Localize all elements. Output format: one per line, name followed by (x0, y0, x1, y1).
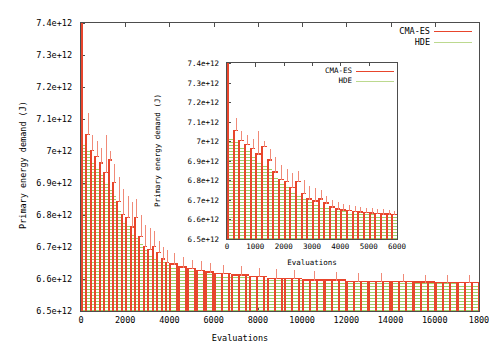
cma-es-error-whisker (201, 261, 202, 271)
x-tick-label: 8000 (248, 315, 268, 325)
y-tick-label: 7.1e+12 (36, 114, 72, 124)
cma-es-error-whisker (326, 196, 327, 204)
cma-es-error-whisker (128, 196, 129, 218)
cma-es-band (435, 283, 457, 311)
cma-es-error-whisker (163, 247, 164, 260)
cma-es-error-whisker (258, 131, 259, 154)
cma-es-error-whisker (294, 270, 295, 279)
y-tick-label: 7.3e+12 (187, 78, 219, 87)
x-tick-label: 3000 (303, 242, 321, 251)
cma-es-error-whisker (270, 149, 271, 161)
main-legend-swatch-cma-es (434, 31, 472, 32)
cma-es-error-whisker (360, 207, 361, 213)
main-y-tick-labels: 6.5e+126.6e+126.7e+126.8e+126.9e+127e+12… (0, 22, 76, 312)
x-tick-label: 12000 (334, 315, 360, 325)
y-tick-label: 6.9e+12 (187, 156, 219, 165)
y-tick-label: 6.7e+12 (36, 242, 72, 252)
main-legend-item-hde: HDE (340, 37, 472, 48)
cma-es-error-whisker (315, 188, 316, 202)
cma-es-error-whisker (167, 250, 168, 263)
cma-es-error-whisker (275, 157, 276, 173)
cma-es-error-whisker (381, 273, 382, 282)
main-legend-label-hde: HDE (415, 37, 430, 47)
y-tick-label: 6.9e+12 (36, 178, 72, 188)
inset-y-axis-label: Primary energy demand (J) (153, 76, 162, 226)
y-tick-label: 7.3e+12 (36, 50, 72, 60)
cma-es-band (284, 279, 302, 311)
data-band (435, 23, 457, 311)
cma-es-band (324, 281, 346, 311)
cma-es-error-whisker (292, 173, 293, 189)
x-tick-label: 2000 (115, 315, 135, 325)
y-tick-label: 7.1e+12 (187, 117, 219, 126)
cma-es-error-whisker (110, 151, 111, 161)
x-tick-label: 4000 (331, 242, 349, 251)
y-tick-label: 7.4e+12 (36, 18, 72, 28)
cma-es-band (169, 265, 178, 311)
x-tick-label: 1800 (469, 315, 489, 325)
cma-es-band (413, 283, 435, 311)
cma-es-band (457, 283, 479, 311)
x-tick-label: 0 (78, 315, 83, 325)
main-legend-item-cma-es: CMA-ES (340, 26, 472, 37)
cma-es-error-whisker (276, 269, 277, 279)
x-tick-label: 10000 (289, 315, 315, 325)
cma-es-error-whisker (336, 272, 337, 281)
cma-es-error-whisker (223, 265, 224, 275)
cma-es-error-whisker (119, 177, 120, 203)
y-tick-label: 7.2e+12 (36, 82, 72, 92)
x-tick-label: 2000 (275, 242, 293, 251)
main-y-axis-label: Primary energy demand (J) (18, 85, 28, 245)
cma-es-band (391, 215, 397, 239)
cma-es-band (368, 282, 390, 311)
cma-es-error-whisker (174, 253, 175, 264)
cma-es-error-whisker (247, 135, 248, 145)
cma-es-error-whisker (447, 275, 448, 283)
main-legend: CMA-ES HDE (340, 26, 472, 48)
y-tick-label: 7.2e+12 (187, 98, 219, 107)
y-tick-label: 7e+12 (46, 146, 72, 156)
cma-es-band (196, 271, 205, 311)
cma-es-error-whisker (253, 139, 254, 149)
cma-es-mean-cap (413, 281, 435, 283)
x-tick-label: 16000 (422, 315, 448, 325)
cma-es-band (391, 282, 413, 311)
cma-es-error-whisker (287, 169, 288, 183)
cma-es-band (205, 273, 214, 311)
y-tick-label: 7e+12 (196, 137, 219, 146)
cma-es-mean-cap (324, 279, 346, 281)
cma-es-error-whisker (88, 113, 89, 135)
cma-es-error-whisker (309, 186, 310, 200)
main-x-axis-label: Evaluations (180, 333, 300, 343)
cma-es-band (302, 281, 324, 311)
data-band (457, 23, 479, 311)
cma-es-error-whisker (366, 208, 367, 214)
cma-es-error-whisker (332, 200, 333, 208)
x-tick-label: 6000 (203, 315, 223, 325)
cma-es-error-whisker (304, 180, 305, 194)
cma-es-error-whisker (159, 241, 160, 254)
cma-es-error-whisker (141, 215, 142, 237)
inset-x-tick-labels: 0100020003000400050006000 (226, 242, 398, 254)
cma-es-error-whisker (150, 228, 151, 250)
cma-es-error-whisker (343, 204, 344, 211)
cma-es-error-whisker (114, 164, 115, 183)
x-tick-label: 4000 (159, 315, 179, 325)
y-tick-label: 6.8e+12 (36, 210, 72, 220)
inset-legend-label-cma-es: CMA-ES (325, 66, 352, 75)
main-legend-label-cma-es: CMA-ES (399, 26, 430, 36)
cma-es-error-whisker (106, 135, 107, 173)
cma-es-error-whisker (210, 263, 211, 273)
cma-es-error-whisker (469, 275, 470, 283)
cma-es-mean-cap (368, 281, 390, 283)
cma-es-error-whisker (355, 206, 356, 212)
inset-legend-item-cma-es: CMA-ES (276, 66, 394, 76)
x-tick-label: 14000 (378, 315, 404, 325)
x-tick-label: 1000 (246, 242, 264, 251)
y-tick-label: 6.5e+12 (36, 306, 72, 316)
cma-es-error-whisker (321, 190, 322, 200)
cma-es-mean-cap (457, 282, 479, 284)
cma-es-error-whisker (383, 209, 384, 214)
cma-es-error-whisker (349, 205, 350, 211)
